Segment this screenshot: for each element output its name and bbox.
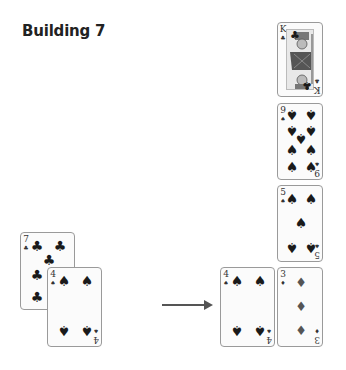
diamond-icon: ♦: [294, 324, 308, 338]
diagram-title: Building 7: [22, 22, 105, 40]
card-3-diamonds: 3♦ ♦ ♦ ♦ 3♦: [277, 267, 323, 347]
spade-icon: ♠: [304, 192, 318, 206]
spade-icon: ♠: [253, 274, 267, 288]
diamond-icon: ♦: [294, 276, 308, 290]
card-index-top: 4♠: [222, 270, 230, 286]
card-index-top: 7♣: [22, 235, 30, 251]
card-index-bottom: K♣: [313, 78, 321, 94]
card-index-bottom: 4♠: [92, 328, 100, 344]
diamond-icon: ♦: [294, 300, 308, 314]
arrow-right-icon: [204, 300, 213, 310]
card-index-bottom: 4♠: [265, 328, 273, 344]
card-4-spades-right: 4♠ ♠ ♠ ♠ ♠ 4♠: [220, 267, 275, 347]
club-icon: ♣: [30, 290, 44, 304]
spade-icon: ♠: [57, 324, 71, 338]
spade-icon: ♠: [294, 216, 308, 230]
card-9-spades: 9♠ ♠ ♠ ♠ ♠ ♠ ♠ ♠ ♠ ♠ 9♠: [277, 103, 323, 180]
spade-icon: ♠: [230, 324, 244, 338]
club-icon: ♣: [30, 268, 44, 282]
card-index-bottom: 9♠: [313, 161, 321, 177]
card-5-spades: 5♠ ♠ ♠ ♠ ♠ ♠ 5♠: [277, 185, 323, 262]
spade-icon: ♠: [304, 143, 318, 157]
spade-icon: ♠: [57, 274, 71, 288]
spade-icon: ♠: [304, 108, 318, 122]
spade-icon: ♠: [285, 108, 299, 122]
card-index-top: 4♠: [49, 270, 57, 286]
arrow-line: [162, 304, 206, 306]
club-icon: ♣: [53, 239, 67, 253]
card-index-bottom: 5♠: [313, 243, 321, 259]
spade-icon: ♠: [285, 192, 299, 206]
spade-icon: ♠: [80, 274, 94, 288]
club-icon: ♣: [288, 29, 302, 43]
card-king-clubs: K♣ ♣ ♣ K♣: [277, 22, 323, 97]
spade-icon: ♠: [230, 274, 244, 288]
club-icon: ♣: [30, 239, 44, 253]
card-index-top: 3♦: [279, 270, 287, 286]
card-index-bottom: 3♦: [313, 328, 321, 344]
spade-icon: ♠: [285, 160, 299, 174]
club-icon: ♣: [42, 253, 56, 267]
spade-icon: ♠: [285, 143, 299, 157]
club-icon: ♣: [300, 78, 314, 92]
card-4-spades-left: 4♠ ♠ ♠ ♠ ♠ 4♠: [47, 267, 102, 347]
spade-icon: ♠: [285, 241, 299, 255]
